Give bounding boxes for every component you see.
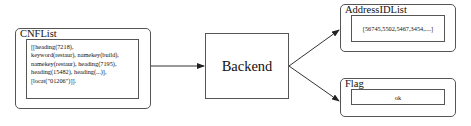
cnflist-title: CNFList	[20, 28, 57, 39]
cnflist-node: CNFList [[heading(7218), keyword(restaur…	[15, 28, 151, 109]
address-id-list-title: AddressIDList	[345, 4, 407, 15]
backend-label: Backend	[222, 58, 273, 75]
address-id-list-node: AddressIDList [56745,5502,5467,3454,....…	[340, 4, 456, 52]
backend-node: Backend	[205, 33, 289, 99]
flag-content: ok	[351, 89, 445, 105]
cnflist-content: [[heading(7218), keyword(restaur), namek…	[26, 39, 139, 99]
arrow-backend-to-flag	[289, 66, 339, 101]
flag-title: Flag	[345, 78, 364, 89]
address-id-list-content: [56745,5502,5467,3454,....]	[351, 15, 445, 42]
arrow-backend-to-addressidlist	[289, 30, 339, 66]
flag-node: Flag ok	[340, 78, 456, 117]
